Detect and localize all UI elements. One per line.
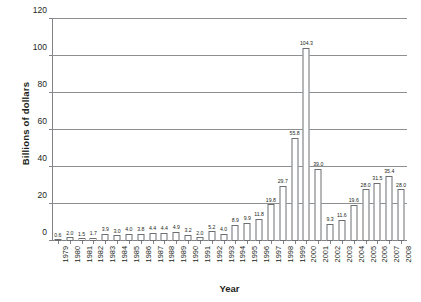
bar-slot: 11.8: [253, 19, 265, 241]
bar: [137, 234, 144, 241]
bar: [374, 183, 381, 241]
x-tick-label: 1986: [144, 246, 153, 262]
x-tick-label: 1992: [215, 246, 224, 262]
x-tick-mark: [342, 241, 343, 244]
y-tick-label: 100: [33, 42, 47, 52]
bar: [173, 232, 180, 241]
x-tick-mark: [377, 241, 378, 244]
bar-value-label: 9.9: [244, 216, 251, 221]
bar: [386, 176, 393, 241]
x-tick-label: 2000: [309, 246, 318, 262]
bar-slot: 4.9: [170, 19, 182, 241]
x-tick-label: 2006: [380, 246, 389, 262]
y-tick-label: 120: [33, 5, 47, 15]
bar-value-label: 4.4: [161, 226, 168, 231]
x-tick-mark: [271, 241, 272, 244]
x-tick-label: 1990: [191, 246, 200, 262]
x-tick-label: 2003: [345, 246, 354, 262]
bar: [291, 138, 298, 241]
x-tick-label: 1984: [120, 246, 129, 262]
bar-value-label: 35.4: [384, 169, 394, 174]
bar: [279, 186, 286, 241]
bar: [125, 234, 132, 241]
bar-slot: 2.0: [64, 19, 76, 241]
bar: [232, 225, 239, 241]
bar-slot: 4.4: [159, 19, 171, 241]
x-tick-label: 2007: [392, 246, 401, 262]
bar: [327, 224, 334, 241]
x-tick-mark: [401, 241, 402, 244]
bar: [256, 219, 263, 241]
y-tick-label: 20: [38, 190, 47, 200]
bar-slot: 3.9: [99, 19, 111, 241]
x-tick-label: 1981: [85, 246, 94, 262]
bar: [149, 233, 156, 241]
x-tick-mark: [389, 241, 390, 244]
x-tick-mark: [58, 241, 59, 244]
x-tick-mark: [318, 241, 319, 244]
y-tick-label: 60: [38, 116, 47, 126]
x-tick-label: 2004: [357, 246, 366, 262]
bar-slot: 5.2: [206, 19, 218, 241]
bar-slot: 4.0: [218, 19, 230, 241]
x-tick-label: 1993: [227, 246, 236, 262]
x-tick-label: 1996: [262, 246, 271, 262]
y-axis-title: Billions of dollars: [20, 39, 31, 209]
bar-slot: 3.0: [111, 19, 123, 241]
bar-slot: 1.5: [76, 19, 88, 241]
bar-slot: 39.0: [312, 19, 324, 241]
x-tick-label: 1985: [132, 246, 141, 262]
x-tick-mark: [224, 241, 225, 244]
bar-slot: 28.0: [360, 19, 372, 241]
bar-value-label: 5.2: [208, 225, 215, 230]
bar-value-label: 11.6: [337, 213, 347, 218]
bar-slot: 19.8: [265, 19, 277, 241]
x-tick-mark: [188, 241, 189, 244]
bar-value-label: 19.6: [349, 198, 359, 203]
x-tick-label: 1991: [203, 246, 212, 262]
bar-slot: 28.0: [395, 19, 407, 241]
bar-value-label: 1.5: [78, 232, 85, 237]
bar-value-label: 55.8: [290, 131, 300, 136]
x-tick-label: 1998: [286, 246, 295, 262]
bar-slot: 4.0: [123, 19, 135, 241]
x-tick-label: 1979: [61, 246, 70, 262]
bar-value-label: 104.3: [300, 41, 313, 46]
bar-slot: 8.9: [230, 19, 242, 241]
bar-value-label: 4.0: [125, 227, 132, 232]
bar-value-label: 4.0: [220, 227, 227, 232]
bar-value-label: 0.6: [54, 233, 61, 238]
bar-slot: 9.3: [324, 19, 336, 241]
bar: [267, 204, 274, 241]
bar: [362, 189, 369, 241]
x-tick-mark: [105, 241, 106, 244]
bar: [303, 48, 310, 241]
x-tick-mark: [295, 241, 296, 244]
x-tick-mark: [93, 241, 94, 244]
plot-area: 020406080100120 0.62.01.51.73.93.04.03.8…: [52, 19, 407, 241]
bar-slot: 35.4: [383, 19, 395, 241]
bar: [161, 233, 168, 241]
x-tick-mark: [259, 241, 260, 244]
x-tick-label: 1983: [108, 246, 117, 262]
bar-value-label: 19.8: [266, 198, 276, 203]
bar-value-label: 2.0: [196, 231, 203, 236]
bar: [315, 169, 322, 241]
bar-slot: 31.5: [372, 19, 384, 241]
x-tick-mark: [306, 241, 307, 244]
bar-value-label: 9.3: [326, 217, 333, 222]
x-tick-mark: [212, 241, 213, 244]
bar-chart: Billions of dollars 020406080100120 0.62…: [0, 0, 421, 302]
bar: [208, 231, 215, 241]
x-tick-mark: [283, 241, 284, 244]
bar-value-label: 29.7: [278, 179, 288, 184]
bar-value-label: 3.2: [184, 228, 191, 233]
bar-value-label: 31.5: [372, 176, 382, 181]
bar-value-label: 28.0: [361, 183, 371, 188]
bar-slot: 55.8: [289, 19, 301, 241]
bar-slot: 104.3: [301, 19, 313, 241]
bar: [398, 189, 405, 241]
bar-series: 0.62.01.51.73.93.04.03.84.44.44.93.22.05…: [52, 19, 407, 241]
x-tick-mark: [153, 241, 154, 244]
bar-value-label: 4.9: [173, 225, 180, 230]
